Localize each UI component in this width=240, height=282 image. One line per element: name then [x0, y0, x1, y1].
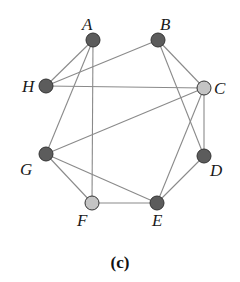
node-d: [197, 149, 211, 163]
edge-a-f: [92, 40, 93, 203]
edge-g-f: [46, 154, 92, 203]
node-label-h: H: [21, 77, 36, 96]
node-label-c: C: [214, 79, 226, 98]
node-h: [39, 79, 53, 93]
graph-diagram: ABCDEFGH (c): [0, 0, 240, 282]
figure-caption: (c): [111, 253, 130, 272]
edge-layer: [46, 40, 204, 203]
node-e: [150, 196, 164, 210]
node-label-a: A: [81, 15, 93, 34]
node-label-d: D: [209, 161, 223, 180]
edge-g-e: [46, 154, 157, 203]
node-label-e: E: [151, 211, 163, 230]
edge-b-c: [158, 40, 204, 88]
node-label-f: F: [76, 211, 88, 230]
edge-h-c: [46, 86, 204, 88]
node-f: [85, 196, 99, 210]
edge-b-h: [46, 40, 158, 86]
edge-a-h: [46, 40, 93, 86]
node-g: [39, 147, 53, 161]
node-b: [151, 33, 165, 47]
node-a: [86, 33, 100, 47]
edge-d-e: [157, 156, 204, 203]
label-layer: ABCDEFGH: [20, 15, 226, 230]
node-label-g: G: [20, 160, 32, 179]
node-label-b: B: [160, 15, 171, 34]
node-c: [197, 81, 211, 95]
